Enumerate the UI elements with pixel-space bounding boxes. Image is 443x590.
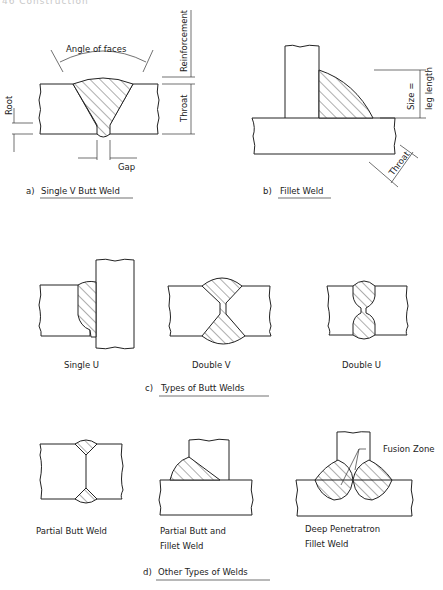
double-u-left-plate: [327, 286, 353, 335]
pbf-base-plate: [159, 480, 253, 515]
double-v-weld-bead: [202, 278, 245, 344]
double-u-right-plate: [375, 286, 408, 335]
base-plate: [252, 118, 396, 154]
figure-c-types-of-butt-welds: Single U Double V Double U c) Types of B…: [39, 259, 408, 396]
figure-c-caption-prefix: c): [145, 383, 153, 393]
vertical-member: [285, 45, 319, 118]
figure-a-single-v-butt-weld: Angle of faces Reinforcement Throat Root…: [4, 9, 195, 198]
deep-penetration-fillet-weld: Fusion Zone Deep Penetratron Fillet Weld: [296, 432, 435, 549]
dp-label-line2: Fillet Weld: [305, 539, 349, 549]
figure-c-caption: Types of Butt Welds: [160, 383, 245, 393]
figure-a-caption: Single V Butt Weld: [41, 186, 120, 196]
figure-d-caption-prefix: d): [143, 567, 152, 577]
double-v-weld: Double V: [168, 278, 271, 370]
dp-label-line1: Deep Penetratron: [305, 524, 380, 534]
figure-b-caption-prefix: b): [263, 186, 272, 196]
double-v-right-plate: [242, 286, 271, 336]
single-u-weld: Single U: [39, 259, 134, 370]
figure-a-caption-prefix: a): [26, 186, 35, 196]
partial-butt-plate: [40, 444, 123, 499]
partial-butt-and-fillet-weld: Partial Butt and Fillet Weld: [159, 439, 253, 551]
reinforcement-label: Reinforcement: [179, 9, 189, 72]
partial-butt-weld: Partial Butt Weld: [36, 440, 123, 536]
figure-d-other-types-of-welds: Partial Butt Weld Partial Butt and Fille…: [36, 432, 435, 580]
leg-length-label: leg length: [424, 67, 434, 110]
double-v-left-plate: [168, 286, 202, 336]
figure-d-caption: Other Types of Welds: [158, 567, 248, 577]
angle-of-faces-label: Angle of faces: [66, 44, 127, 54]
size-label: Size =: [406, 83, 416, 110]
double-u-weld-bead: [353, 281, 375, 339]
pbf-label-line1: Partial Butt and: [160, 526, 226, 536]
throat-label: Throat: [179, 94, 189, 123]
double-u-weld: Double U: [327, 281, 408, 370]
pbf-label-line2: Fillet Weld: [160, 541, 204, 551]
weld-types-diagram: Angle of faces Reinforcement Throat Root…: [0, 0, 443, 590]
fusion-zone-label: Fusion Zone: [383, 444, 435, 454]
double-v-label: Double V: [192, 360, 231, 370]
single-u-vertical-plate: [96, 259, 134, 349]
fillet-weld-bead: [319, 70, 373, 118]
angle-leg-left: [51, 50, 63, 72]
gap-label: Gap: [118, 162, 135, 172]
double-u-label: Double U: [342, 360, 381, 370]
root-label: Root: [4, 95, 14, 115]
figure-b-fillet-weld: Size = leg length Throat b) Fillet Weld: [252, 45, 434, 198]
partial-butt-label: Partial Butt Weld: [36, 526, 107, 536]
single-u-label: Single U: [64, 360, 99, 370]
figure-b-caption: Fillet Weld: [280, 186, 324, 196]
